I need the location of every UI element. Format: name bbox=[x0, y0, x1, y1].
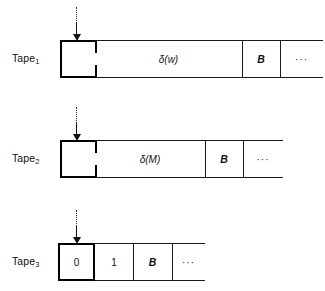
tape-2-blank-cell-text: B bbox=[205, 140, 243, 178]
tape-3-label-text: Tape bbox=[12, 255, 35, 267]
tape-3-head-cell-text: 0 bbox=[58, 243, 95, 281]
tape-1-head-cell bbox=[60, 40, 95, 78]
turing-machine-tape-diagram: Tape1 δ(w) B ··· Tape2 bbox=[0, 0, 325, 291]
tape-2-label-subscript: 2 bbox=[35, 157, 39, 166]
tape-3-ellipsis-cell-text: ··· bbox=[172, 243, 205, 281]
tape-1-ellipsis-cell-text: ··· bbox=[280, 40, 323, 78]
tape-row-1: Tape1 δ(w) B ··· bbox=[0, 0, 325, 95]
tape-2-label: Tape2 bbox=[12, 152, 39, 164]
tape-3-content-cell-text: 1 bbox=[95, 243, 133, 281]
tape-1-label-subscript: 1 bbox=[35, 57, 39, 66]
tape-2-ellipsis-cell-text: ··· bbox=[243, 140, 283, 178]
tape-2-head-cell bbox=[60, 140, 95, 178]
tape-2-content-cell-text: δ(M) bbox=[95, 140, 205, 178]
tape-2-head-arrow bbox=[72, 107, 81, 141]
tape-3-head-arrow bbox=[72, 210, 81, 244]
downward-arrow-icon-dotted-shaft bbox=[76, 210, 77, 226]
tape-1-head-arrow bbox=[72, 7, 81, 41]
tape-1-label-text: Tape bbox=[12, 52, 35, 64]
tape-1-label: Tape1 bbox=[12, 52, 39, 64]
tape-2-label-text: Tape bbox=[12, 152, 35, 164]
downward-arrow-icon-dotted-shaft bbox=[76, 107, 77, 123]
tape-row-2: Tape2 δ(M) B ··· bbox=[0, 100, 325, 195]
tape-1-blank-cell-text: B bbox=[242, 40, 280, 78]
tape-3-label: Tape3 bbox=[12, 255, 39, 267]
tape-row-3: Tape3 0 1 B ··· bbox=[0, 203, 325, 291]
downward-arrow-icon-dotted-shaft bbox=[76, 7, 77, 23]
tape-3-blank-cell-text: B bbox=[133, 243, 172, 281]
tape-3-label-subscript: 3 bbox=[35, 260, 39, 269]
tape-1-content-cell-text: δ(w) bbox=[95, 40, 242, 78]
